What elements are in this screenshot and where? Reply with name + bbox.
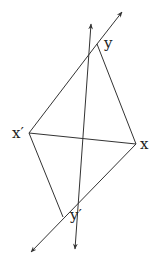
geometry-diagram: y x′ x y′ xyxy=(0,0,158,260)
ray-through-x-yprime-lower xyxy=(31,144,136,252)
label-y-prime: y′ xyxy=(69,206,82,224)
label-x-prime: x′ xyxy=(12,124,24,142)
edge-y-x xyxy=(97,44,136,144)
label-y: y xyxy=(103,34,113,52)
label-x: x xyxy=(140,135,149,153)
edge-yprime-xprime xyxy=(29,133,63,217)
